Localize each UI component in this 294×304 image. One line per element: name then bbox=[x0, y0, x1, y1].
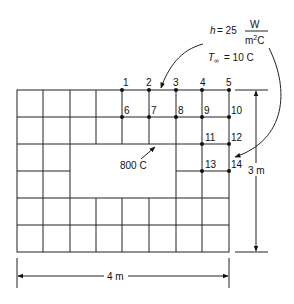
h-units-numerator: W bbox=[250, 19, 260, 30]
node-11 bbox=[200, 142, 204, 146]
node-5 bbox=[227, 88, 231, 92]
node-label-9: 9 bbox=[204, 105, 210, 116]
h-symbol: h bbox=[210, 25, 216, 36]
height-label: 3 m bbox=[248, 165, 265, 176]
interior-temp-label: 800 C bbox=[120, 160, 147, 171]
node-label-3: 3 bbox=[173, 77, 179, 88]
node-label-13: 13 bbox=[205, 159, 217, 170]
h-value: = 25 bbox=[217, 25, 237, 36]
node-label-5: 5 bbox=[226, 77, 232, 88]
diagram-canvas: 1 2 3 4 5 6 7 8 9 10 11 12 13 14 h = 25 … bbox=[0, 0, 294, 304]
node-label-7: 7 bbox=[151, 105, 157, 116]
t-infinity-label: T∞ bbox=[208, 52, 219, 64]
convection-label: h = 25 W m2C T∞ = 10 C bbox=[208, 19, 268, 64]
node-label-6: 6 bbox=[124, 105, 130, 116]
node-1 bbox=[120, 88, 124, 92]
interior-hollow bbox=[71, 145, 175, 197]
node-label-12: 12 bbox=[231, 132, 243, 143]
node-label-2: 2 bbox=[146, 77, 152, 88]
node-label-8: 8 bbox=[178, 105, 184, 116]
curved-arrow-top bbox=[161, 44, 203, 88]
node-2 bbox=[147, 88, 151, 92]
node-label-10: 10 bbox=[231, 105, 243, 116]
node-label-11: 11 bbox=[205, 132, 216, 143]
node-label-4: 4 bbox=[200, 77, 206, 88]
node-13 bbox=[200, 169, 204, 173]
width-dimension: 4 m bbox=[17, 258, 229, 288]
convection-arrows bbox=[161, 44, 281, 157]
node-3 bbox=[174, 88, 178, 92]
node-label-1: 1 bbox=[123, 77, 129, 88]
h-units-denominator: m2C bbox=[245, 34, 264, 46]
t-infinity-value: = 10 C bbox=[224, 52, 254, 63]
width-label: 4 m bbox=[107, 271, 124, 282]
node-label-14: 14 bbox=[231, 159, 243, 170]
node-4 bbox=[200, 88, 204, 92]
